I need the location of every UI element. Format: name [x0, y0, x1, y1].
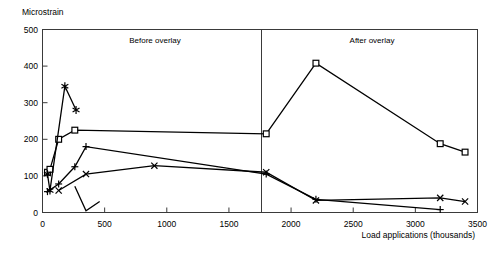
y-axis-title: Microstrain	[22, 7, 64, 17]
series-square	[45, 60, 468, 175]
panel-label-before-overlay: Before overlay	[129, 36, 181, 45]
marker-square	[263, 131, 269, 137]
x-axis-title: Load applications (thousands)	[362, 230, 476, 240]
marker-square	[72, 127, 78, 133]
y-tick-label: 0	[33, 208, 38, 218]
y-axis-tick-labels: 0100200300400500	[24, 25, 38, 218]
series-polyline	[47, 63, 465, 172]
series-none	[75, 186, 100, 211]
series-polyline	[47, 147, 440, 210]
y-tick-label: 400	[24, 61, 38, 71]
x-tick-label: 2500	[344, 219, 363, 229]
x-axis-tick-labels: 0500100015002000250030003500	[40, 219, 487, 229]
marker-square	[313, 60, 319, 66]
x-tick-label: 500	[98, 219, 112, 229]
series-plus	[44, 143, 444, 213]
panel-label-after-overlay: After overlay	[350, 36, 395, 45]
x-axis-ticks	[105, 208, 416, 213]
y-tick-label: 100	[24, 171, 38, 181]
series-layer	[44, 60, 468, 213]
plot-frame	[43, 30, 478, 213]
marker-square	[462, 149, 468, 155]
x-tick-label: 3000	[406, 219, 425, 229]
x-tick-label: 1000	[157, 219, 176, 229]
x-tick-label: 1500	[219, 219, 238, 229]
y-axis-ticks	[43, 66, 48, 176]
x-tick-label: 2000	[282, 219, 301, 229]
marker-square	[437, 141, 443, 147]
y-tick-label: 200	[24, 134, 38, 144]
chart-container: Microstrain 0100200300400500 05001000150…	[0, 0, 495, 257]
x-tick-label: 0	[40, 219, 45, 229]
y-tick-label: 300	[24, 98, 38, 108]
x-tick-label: 3500	[468, 219, 487, 229]
y-tick-label: 500	[24, 25, 38, 35]
series-polyline	[75, 186, 100, 211]
chart-svg: Microstrain 0100200300400500 05001000150…	[0, 0, 495, 257]
